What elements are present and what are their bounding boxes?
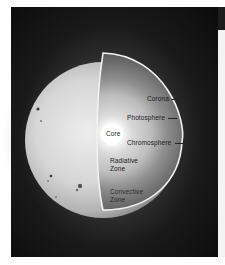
label-core: Core xyxy=(106,130,121,138)
label-convective-zone-1: Convective xyxy=(110,188,143,196)
label-corona: Corona xyxy=(147,95,169,103)
label-photosphere: Photosphere xyxy=(127,114,165,122)
label-convective-zone-2: Zone xyxy=(110,196,125,204)
label-radiative-zone-2: Zone xyxy=(110,165,125,173)
corona-pointer-line xyxy=(171,99,179,100)
chromosphere-pointer-line xyxy=(175,143,185,144)
label-radiative-zone-1: Radiative xyxy=(110,157,138,165)
label-chromosphere: Chromosphere xyxy=(127,139,171,147)
photosphere-pointer-line xyxy=(168,118,177,119)
